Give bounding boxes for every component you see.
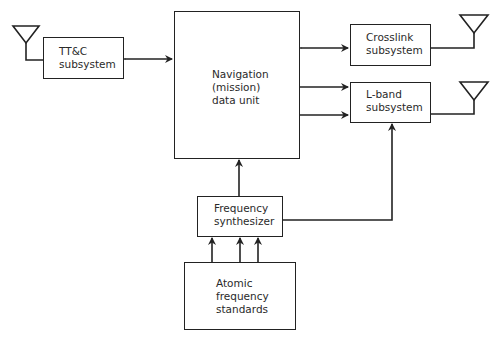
ttc-label-1: TT&C — [59, 45, 87, 58]
lband-label-2: subsystem — [366, 101, 423, 114]
nav-label-3: data unit — [212, 94, 259, 107]
lband-label-1: L-band — [366, 88, 402, 101]
lband-antenna-icon — [460, 82, 488, 100]
ttc-antenna-icon — [13, 26, 39, 43]
atomic-label-2: frequency — [216, 290, 269, 303]
crosslink-antenna-icon — [460, 15, 488, 33]
nav-label-2: (mission) — [212, 81, 260, 94]
crosslink-label-2: subsystem — [366, 44, 423, 57]
crosslink-label-1: Crosslink — [366, 31, 413, 44]
atomic-label-3: standards — [216, 303, 268, 316]
atomic-label-1: Atomic — [216, 277, 252, 290]
nav-label-1: Navigation — [212, 68, 269, 81]
synth-label-1: Frequency — [214, 202, 268, 215]
ttc-label-2: subsystem — [59, 58, 116, 71]
synth-label-2: synthesizer — [214, 215, 274, 228]
